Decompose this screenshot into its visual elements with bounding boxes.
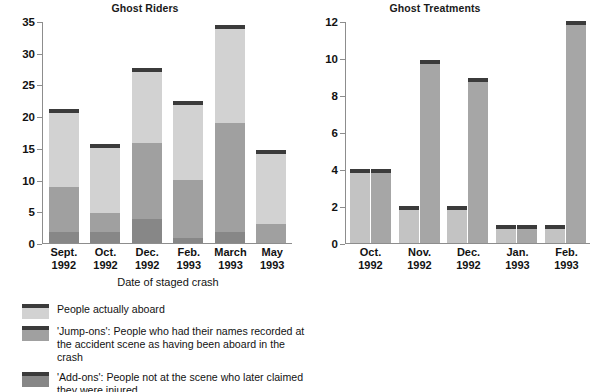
- y-tick-mark: [37, 54, 42, 55]
- x-label-month: May: [251, 246, 293, 259]
- x-label-month: Dec.: [444, 246, 493, 259]
- right-x-labels: Oct.1992Nov.1992Dec.1992Jan.1993Feb.1993: [346, 246, 591, 272]
- bar-pair[interactable]: [496, 225, 537, 244]
- bar: [371, 169, 391, 243]
- y-tick-mark: [340, 170, 345, 171]
- x-label-month: Oct.: [346, 246, 395, 259]
- bar: [420, 60, 440, 243]
- bar-segment: [132, 143, 162, 219]
- bar-segment: [132, 72, 162, 143]
- x-axis-label: Feb.1993: [542, 246, 591, 272]
- bar-slot[interactable]: [492, 22, 541, 243]
- bar-segment: [173, 105, 203, 180]
- bar-cap: [468, 78, 488, 82]
- x-label-month: Oct.: [85, 246, 127, 259]
- stacked-bar[interactable]: [49, 109, 79, 243]
- x-label-year: 1993: [251, 259, 293, 272]
- y-tick-label: 12: [325, 16, 338, 28]
- bar-segment: [215, 232, 245, 243]
- y-tick-label: 30: [22, 48, 35, 60]
- x-label-month: Feb.: [542, 246, 591, 259]
- bar: [399, 206, 419, 243]
- bar-cap: [496, 225, 516, 229]
- y-tick-label: 0: [29, 238, 35, 250]
- bar: [350, 169, 370, 243]
- y-tick-label: 0: [332, 238, 338, 250]
- x-label-month: Dec.: [126, 246, 168, 259]
- bar-segment: [173, 238, 203, 243]
- x-axis-label: Nov.1992: [395, 246, 444, 272]
- stacked-bar[interactable]: [173, 101, 203, 243]
- y-tick-label: 10: [22, 175, 35, 187]
- bar-segment: [132, 219, 162, 243]
- legend-swatch: [22, 326, 49, 341]
- bar-cap: [420, 60, 440, 64]
- y-tick-mark: [340, 22, 345, 23]
- bar-pair[interactable]: [447, 78, 488, 243]
- figure-page: Ghost Riders 05101520253035 Sept.1992Oct…: [0, 0, 603, 392]
- legend-label: People actually aboard: [57, 303, 165, 316]
- stacked-bar[interactable]: [256, 150, 286, 243]
- bar-slot[interactable]: [126, 22, 168, 243]
- x-label-month: March: [210, 246, 252, 259]
- bar-slot[interactable]: [85, 22, 127, 243]
- legend-item: 'Jump-ons': People who had their names r…: [22, 325, 312, 365]
- bar-segment: [49, 187, 79, 231]
- legend-swatch: [22, 372, 49, 387]
- legend-label: 'Add-ons': People not at the scene who l…: [57, 371, 312, 392]
- bar-cap: [545, 225, 565, 229]
- y-tick-label: 10: [325, 53, 338, 65]
- bar-slot[interactable]: [168, 22, 210, 243]
- x-label-year: 1993: [210, 259, 252, 272]
- bar-slot[interactable]: [209, 22, 251, 243]
- right-bar-group: [346, 22, 590, 243]
- stacked-bar[interactable]: [215, 25, 245, 243]
- bar-segment: [215, 123, 245, 232]
- stacked-bar[interactable]: [132, 68, 162, 243]
- bar-segment: [215, 29, 245, 123]
- bar-slot[interactable]: [444, 22, 493, 243]
- bar-segment: [173, 180, 203, 238]
- left-legend: People actually aboard'Jump-ons': People…: [22, 303, 312, 392]
- bar-cap: [371, 169, 391, 173]
- x-axis-label: Feb.1993: [168, 246, 210, 272]
- bar-slot[interactable]: [251, 22, 293, 243]
- bar-segment: [90, 232, 120, 243]
- bar-slot[interactable]: [43, 22, 85, 243]
- bar-slot[interactable]: [346, 22, 395, 243]
- bar: [566, 21, 586, 243]
- x-label-year: 1992: [43, 259, 85, 272]
- x-label-month: Nov.: [395, 246, 444, 259]
- bar-slot[interactable]: [395, 22, 444, 243]
- bar-pair[interactable]: [350, 169, 391, 243]
- x-label-year: 1992: [395, 259, 444, 272]
- y-tick-label: 6: [332, 127, 338, 139]
- legend-swatch-cap: [22, 326, 49, 330]
- bar: [447, 206, 467, 243]
- bar-cap: [350, 169, 370, 173]
- bar-pair[interactable]: [399, 60, 440, 243]
- bar-pair[interactable]: [545, 21, 586, 243]
- left-chart-title: Ghost Riders: [10, 2, 280, 14]
- x-label-year: 1992: [126, 259, 168, 272]
- y-tick-mark: [37, 149, 42, 150]
- left-x-axis: [42, 243, 292, 244]
- legend-label: 'Jump-ons': People who had their names r…: [57, 325, 312, 365]
- y-tick-label: 15: [22, 143, 35, 155]
- y-tick-mark: [37, 244, 42, 245]
- y-tick-label: 8: [332, 90, 338, 102]
- right-chart-title: Ghost Treatments: [310, 2, 560, 14]
- bar-slot[interactable]: [541, 22, 590, 243]
- y-tick-mark: [37, 85, 42, 86]
- y-tick-mark: [340, 244, 345, 245]
- bar-segment: [49, 113, 79, 187]
- y-tick-label: 4: [332, 164, 338, 176]
- y-tick-label: 2: [332, 201, 338, 213]
- x-axis-label: Oct.1992: [346, 246, 395, 272]
- x-label-month: Sept.: [43, 246, 85, 259]
- y-tick-mark: [37, 181, 42, 182]
- x-label-month: Feb.: [168, 246, 210, 259]
- stacked-bar[interactable]: [90, 144, 120, 243]
- x-label-year: 1993: [493, 259, 542, 272]
- x-axis-label: Sept.1992: [43, 246, 85, 272]
